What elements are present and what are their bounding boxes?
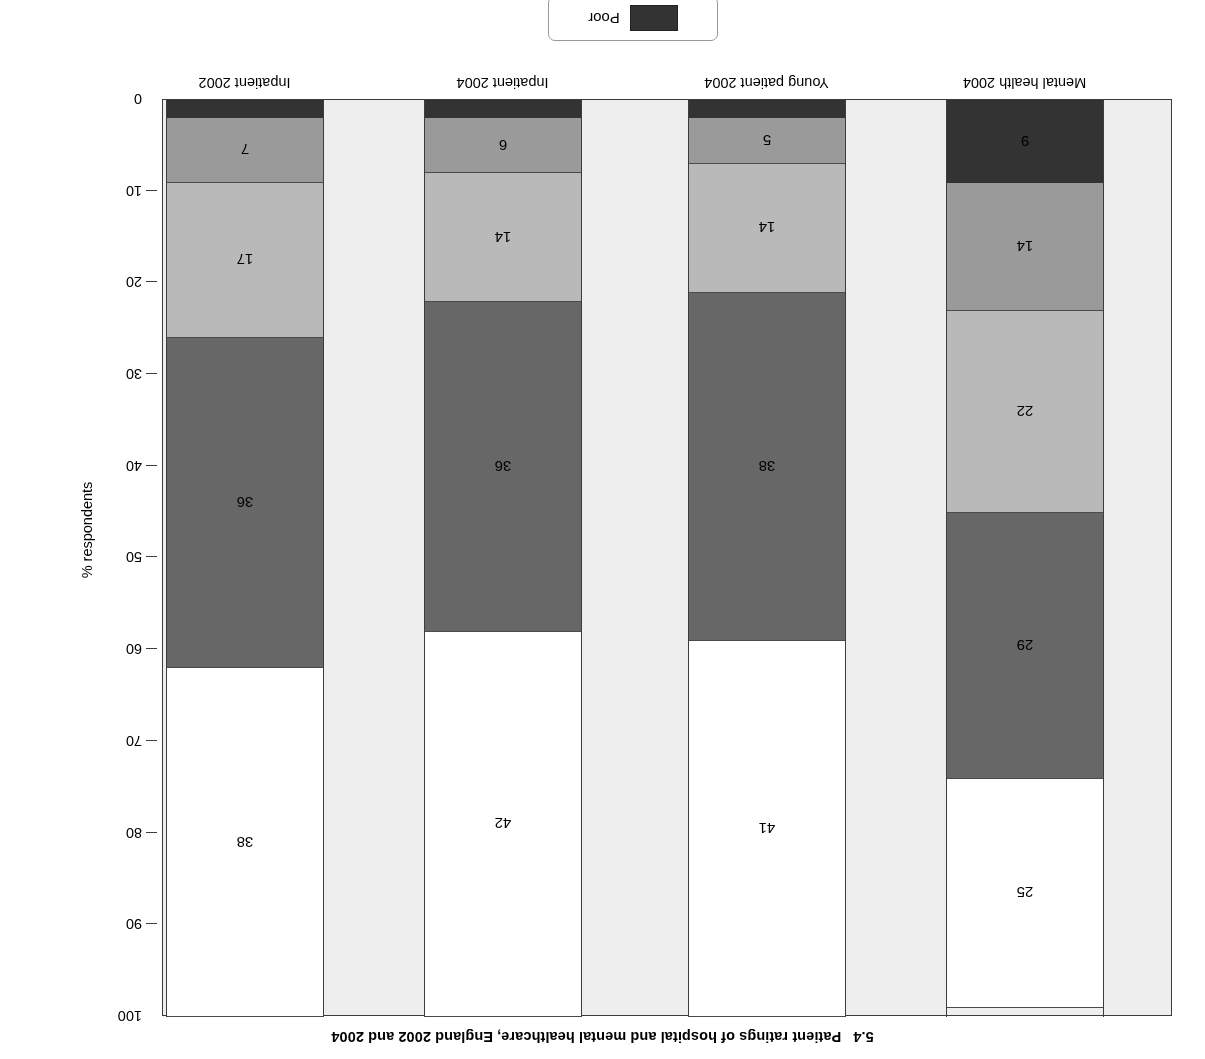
bar-segment-value: 14 [759, 220, 776, 235]
bar-segment-value: 6 [499, 138, 507, 153]
y-tick-label: 40 [108, 458, 142, 474]
bar-segment: 42 [425, 632, 581, 1017]
y-tick-label: 60 [108, 641, 142, 657]
y-tick-label: 10 [108, 183, 142, 199]
chart-figure: 5.4Patient ratings of hospital and menta… [0, 0, 1205, 1059]
stacked-bar: 7173638 [166, 100, 324, 1017]
stacked-bar: 6143642 [424, 100, 582, 1017]
bar-segment: 14 [689, 164, 845, 292]
y-axis-label: % respondents [79, 482, 95, 579]
bar-segment-value: 36 [237, 495, 254, 510]
bar-segment: 36 [167, 338, 323, 668]
y-tick-label: 90 [108, 916, 142, 932]
bar-segment: 17 [167, 183, 323, 339]
legend-label-poor: Poor [588, 10, 620, 27]
chart-canvas: 5.4Patient ratings of hospital and menta… [0, 0, 1205, 1059]
y-axis: 0102030405060708090100 [102, 99, 162, 1016]
bar-segment-value: 22 [1017, 404, 1034, 419]
bar-segment: 14 [947, 183, 1103, 311]
y-tick-label: 20 [108, 274, 142, 290]
bar-segment: 29 [947, 513, 1103, 779]
bar-segment: 38 [167, 669, 323, 1017]
stacked-bar: 914222925 [946, 100, 1104, 1017]
bar-segment-value: 36 [495, 459, 512, 474]
y-tick-mark [146, 557, 157, 558]
caption-text: Patient ratings of hospital and mental h… [331, 1029, 841, 1045]
bar-segment: 38 [689, 293, 845, 641]
bar-segment-value: 29 [1017, 638, 1034, 653]
y-tick-label: 100 [108, 1008, 142, 1024]
y-tick-mark [146, 373, 157, 374]
bar-segment: 36 [425, 302, 581, 632]
plot-area: 717363861436425143841914222925 [162, 99, 1172, 1016]
bar-segment: 9 [947, 100, 1103, 183]
bar-segment-value: 38 [237, 835, 254, 850]
y-tick-mark [146, 465, 157, 466]
y-tick-label: 30 [108, 366, 142, 382]
y-tick-mark [146, 923, 157, 924]
stacked-bar: 5143841 [688, 100, 846, 1017]
bar-segment: 6 [425, 118, 581, 173]
category-label: Inpatient 2004 [382, 75, 623, 91]
bar-segment-value: 14 [1017, 239, 1034, 254]
bar-segment [425, 100, 581, 118]
bar-segment: 5 [689, 118, 845, 164]
y-tick-mark [146, 832, 157, 833]
y-tick-label: 0 [108, 91, 142, 107]
chart-legend: Poor [548, 0, 718, 41]
chart-caption: 5.4Patient ratings of hospital and menta… [0, 1029, 1205, 1045]
bar-segment: 41 [689, 641, 845, 1017]
category-label: Inpatient 2002 [124, 75, 365, 91]
bar-segment [167, 100, 323, 118]
bar-segment-value: 41 [759, 821, 776, 836]
category-label: Mental health 2004 [904, 75, 1145, 91]
bar-segment-value: 5 [763, 133, 771, 148]
bar-segment: 25 [947, 779, 1103, 1008]
legend-swatch-poor [630, 6, 678, 32]
y-tick-mark [146, 190, 157, 191]
bar-segment-value: 7 [241, 142, 249, 157]
y-tick-mark [146, 740, 157, 741]
bar-segment: 7 [167, 118, 323, 182]
y-tick-label: 80 [108, 825, 142, 841]
category-label: Young patient 2004 [646, 75, 887, 91]
bar-segment [689, 100, 845, 118]
bar-segment-value: 38 [759, 459, 776, 474]
bar-segment: 22 [947, 311, 1103, 513]
bar-segment-value: 17 [237, 252, 254, 267]
y-tick-label: 70 [108, 733, 142, 749]
bar-segment: 14 [425, 173, 581, 301]
caption-number: 5.4 [853, 1029, 873, 1045]
bar-segment-value: 9 [1021, 134, 1029, 149]
y-tick-label: 50 [108, 550, 142, 566]
y-tick-mark [146, 648, 157, 649]
bar-segment-value: 14 [495, 230, 512, 245]
bar-segment-value: 25 [1017, 885, 1034, 900]
bar-segment-value: 42 [495, 816, 512, 831]
y-tick-mark [146, 281, 157, 282]
